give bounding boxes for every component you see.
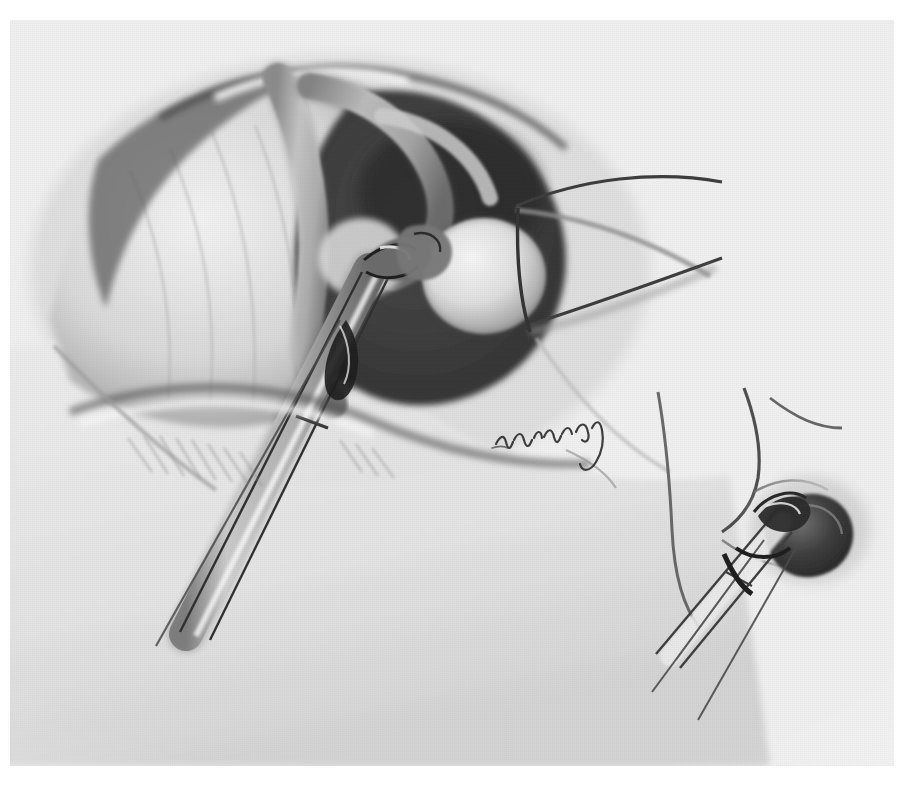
illustration-page xyxy=(0,0,904,787)
illustration-canvas xyxy=(10,20,894,766)
illustration-plate xyxy=(10,20,894,766)
